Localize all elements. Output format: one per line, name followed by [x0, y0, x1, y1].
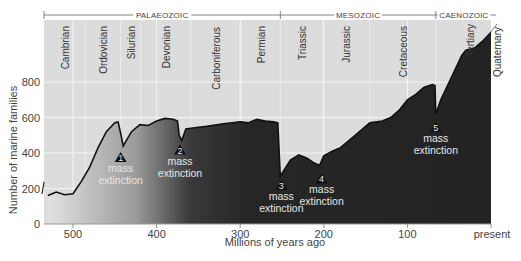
- period-label-jurassic: Jurassic: [341, 26, 352, 63]
- era-label-palaeozoic: PALAEOZOIC: [136, 11, 189, 20]
- extinction-text: extinction: [259, 202, 304, 214]
- left-edge-marker: [42, 182, 44, 194]
- period-label-tertiary: Tertiary: [465, 24, 476, 57]
- marine-families-chart: CambrianOrdovicianSilurianDevonianCarbon…: [0, 0, 521, 261]
- x-tick-label: 500: [64, 228, 82, 240]
- x-tick-label: 100: [398, 228, 416, 240]
- period-label-quaternary: Quaternary: [492, 27, 503, 77]
- y-tick-label: 0: [34, 218, 40, 230]
- extinction-text: mass: [423, 132, 448, 144]
- period-label-silurian: Silurian: [126, 26, 137, 59]
- era-label-caenozoic: CAENOZOIC: [439, 11, 488, 20]
- period-label-permian: Permian: [256, 26, 267, 63]
- period-label-cretaceous: Cretaceous: [398, 26, 409, 77]
- extinction-text: mass: [269, 190, 294, 202]
- x-axis-label: Millions of years ago: [225, 236, 325, 248]
- y-tick-label: 800: [22, 76, 40, 88]
- y-tick-label: 400: [22, 147, 40, 159]
- period-label-carboniferous: Carboniferous: [211, 27, 222, 90]
- extinction-text: extinction: [414, 144, 459, 156]
- y-tick-label: 200: [22, 183, 40, 195]
- y-axis-label: Number of marine families: [7, 85, 19, 214]
- era-label-mesozoic: MESOZOIC: [336, 11, 380, 20]
- period-label-ordovician: Ordovician: [98, 26, 109, 74]
- extinction-text: mass: [108, 162, 133, 174]
- extinction-text: mass: [167, 155, 192, 167]
- period-label-devonian: Devonian: [161, 26, 172, 68]
- x-tick-label: 400: [147, 228, 165, 240]
- y-tick-label: 600: [22, 112, 40, 124]
- extinction-text: extinction: [98, 174, 143, 186]
- era-bar: PALAEOZOICMESOZOICCAENOZOIC: [44, 10, 496, 20]
- extinction-text: mass: [309, 183, 334, 195]
- extinction-text: extinction: [299, 195, 344, 207]
- period-label-cambrian: Cambrian: [60, 26, 71, 69]
- y-axis-ticks: 0200400600800: [22, 76, 40, 230]
- period-label-triassic: Triassic: [297, 26, 308, 60]
- x-tick-label: present: [474, 228, 511, 240]
- extinction-text: extinction: [158, 167, 203, 179]
